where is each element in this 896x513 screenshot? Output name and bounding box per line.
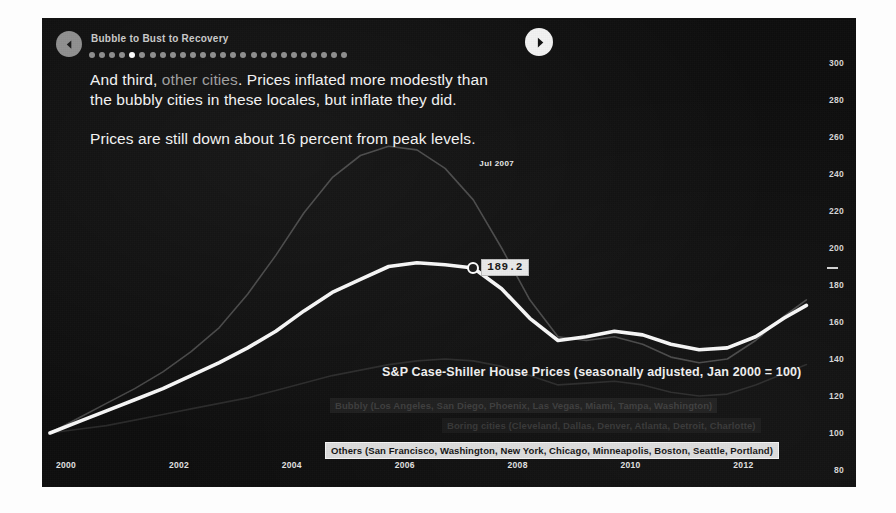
pagination-dot[interactable] bbox=[129, 52, 135, 58]
y-axis-tick-label: 160 bbox=[829, 317, 844, 327]
pagination-dot[interactable] bbox=[210, 52, 216, 58]
slide-panel: Bubble to Bust to Recovery And third, ot… bbox=[42, 18, 856, 487]
pagination-dot[interactable] bbox=[261, 52, 267, 58]
x-axis-tick-label: 2002 bbox=[169, 460, 189, 470]
pagination-dot[interactable] bbox=[240, 52, 246, 58]
y-axis-tick-label: 180 bbox=[829, 280, 844, 290]
pagination-dot[interactable] bbox=[331, 52, 337, 58]
chart-title: S&P Case-Shiller House Prices (seasonall… bbox=[382, 365, 801, 379]
screenshot-canvas: Bubble to Bust to Recovery And third, ot… bbox=[0, 0, 896, 513]
y-axis-current-marker bbox=[827, 267, 838, 269]
x-axis-tick-label: 2008 bbox=[508, 460, 528, 470]
y-axis-tick-label: 100 bbox=[829, 428, 844, 438]
pagination-dot[interactable] bbox=[190, 52, 196, 58]
pagination-dot[interactable] bbox=[99, 52, 105, 58]
narrative-copy: And third, other cities. Prices inflated… bbox=[90, 70, 510, 149]
x-axis: 2000200220042006200820102012 bbox=[42, 460, 856, 474]
deck-title: Bubble to Bust to Recovery bbox=[91, 33, 229, 44]
x-axis-tick-label: 2012 bbox=[733, 460, 753, 470]
y-axis-tick-label: 120 bbox=[829, 391, 844, 401]
pagination-dots[interactable] bbox=[89, 52, 347, 58]
pagination-dot[interactable] bbox=[160, 52, 166, 58]
pagination-dot[interactable] bbox=[150, 52, 156, 58]
pagination-dot[interactable] bbox=[200, 52, 206, 58]
value-tooltip: 189.2 bbox=[481, 259, 529, 276]
y-axis: 80100120140160180200220240260280300 bbox=[810, 18, 850, 487]
paragraph1-lead: And third, bbox=[90, 71, 162, 88]
y-axis-tick-label: 260 bbox=[829, 132, 844, 142]
narrative-paragraph-1: And third, other cities. Prices inflated… bbox=[90, 70, 510, 109]
pagination-dot[interactable] bbox=[251, 52, 257, 58]
narrative-paragraph-2: Prices are still down about 16 percent f… bbox=[90, 129, 510, 149]
pagination-dot[interactable] bbox=[321, 52, 327, 58]
pagination-dot[interactable] bbox=[220, 52, 226, 58]
legend-item-others[interactable]: Others (San Francisco, Washington, New Y… bbox=[325, 442, 779, 459]
x-axis-tick-label: 2004 bbox=[282, 460, 302, 470]
y-axis-tick-label: 140 bbox=[829, 354, 844, 364]
pagination-dot[interactable] bbox=[139, 52, 145, 58]
pagination-dot[interactable] bbox=[89, 52, 95, 58]
legend-item-bubbly[interactable]: Bubbly (Los Angeles, San Diego, Phoenix,… bbox=[330, 398, 717, 413]
x-axis-tick-label: 2000 bbox=[56, 460, 76, 470]
pagination-dot[interactable] bbox=[271, 52, 277, 58]
pagination-dot[interactable] bbox=[180, 52, 186, 58]
pagination-dot[interactable] bbox=[341, 52, 347, 58]
x-axis-tick-label: 2010 bbox=[620, 460, 640, 470]
pagination-dot[interactable] bbox=[311, 52, 317, 58]
x-axis-tick-label: 2006 bbox=[395, 460, 415, 470]
pagination-dot[interactable] bbox=[301, 52, 307, 58]
chevron-left-icon[interactable] bbox=[56, 31, 82, 57]
pagination-dot[interactable] bbox=[230, 52, 236, 58]
y-axis-tick-label: 200 bbox=[829, 243, 844, 253]
paragraph1-highlight: other cities bbox=[162, 71, 238, 88]
y-axis-tick-label: 220 bbox=[829, 206, 844, 216]
pagination-dot[interactable] bbox=[119, 52, 125, 58]
pagination-dot[interactable] bbox=[170, 52, 176, 58]
pagination-dot[interactable] bbox=[281, 52, 287, 58]
chevron-right-icon[interactable] bbox=[525, 28, 553, 56]
y-axis-tick-label: 280 bbox=[829, 95, 844, 105]
y-axis-tick-label: 240 bbox=[829, 169, 844, 179]
peak-date-annotation: Jul 2007 bbox=[479, 159, 514, 168]
y-axis-tick-label: 300 bbox=[829, 58, 844, 68]
pagination-dot[interactable] bbox=[109, 52, 115, 58]
legend-item-boring[interactable]: Boring cities (Cleveland, Dallas, Denver… bbox=[442, 418, 761, 433]
pagination-dot[interactable] bbox=[291, 52, 297, 58]
